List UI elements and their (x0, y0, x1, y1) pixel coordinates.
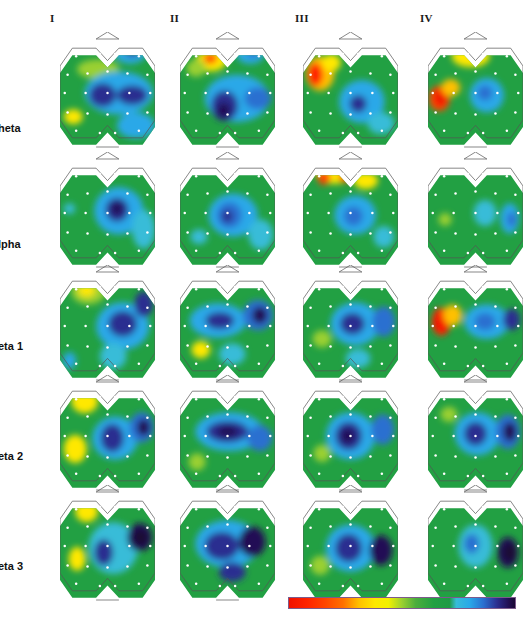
column-header-I: I (50, 12, 55, 24)
brain-map-alpha-III (303, 152, 398, 274)
brain-map-beta2-IV (428, 375, 523, 497)
brain-map-beta1-III (303, 265, 398, 387)
brain-map-theta-I (60, 32, 155, 154)
brain-map-beta3-III (303, 485, 398, 607)
brain-map-beta2-II (180, 375, 275, 497)
brain-map-beta3-IV (428, 485, 523, 607)
brain-map-beta3-I (60, 485, 155, 607)
brain-map-beta2-III (303, 375, 398, 497)
column-header-II: II (170, 12, 179, 24)
column-header-IV: IV (420, 12, 433, 24)
brain-map-alpha-II (180, 152, 275, 274)
brain-map-beta1-I (60, 265, 155, 387)
brain-map-beta1-IV (428, 265, 523, 387)
brain-map-beta1-II (180, 265, 275, 387)
brain-map-alpha-I (60, 152, 155, 274)
colorbar-gradient (288, 597, 516, 609)
brain-map-theta-IV (428, 32, 523, 154)
brain-map-theta-II (180, 32, 275, 154)
brain-map-beta3-II (180, 485, 275, 607)
brain-map-theta-III (303, 32, 398, 154)
column-header-III: III (295, 12, 309, 24)
row-label-beta2: eta 2 (0, 450, 23, 462)
row-label-alpha: lpha (0, 238, 21, 250)
brain-map-beta2-I (60, 375, 155, 497)
brain-map-alpha-IV (428, 152, 523, 274)
row-label-theta: heta (0, 122, 21, 134)
eeg-topomap-figure: IIIIIIIVhetalphaeta 1eta 2eta 3 (0, 0, 525, 617)
row-label-beta1: eta 1 (0, 340, 23, 352)
row-label-beta3: eta 3 (0, 560, 23, 572)
colorbar (288, 597, 516, 609)
